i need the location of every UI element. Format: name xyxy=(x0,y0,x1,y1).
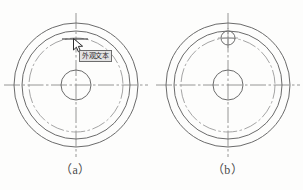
figure-panel-b: （b） xyxy=(152,0,303,190)
panel-a-caption: （a） xyxy=(0,160,151,178)
panel-b-caption: （b） xyxy=(152,160,303,178)
appearance-text-tooltip: 外观文本 xyxy=(79,50,112,62)
figure-panel-a: 外观文本 （a） xyxy=(0,0,151,190)
cad-figure-canvas: 外观文本 （a） （b） xyxy=(0,0,303,190)
